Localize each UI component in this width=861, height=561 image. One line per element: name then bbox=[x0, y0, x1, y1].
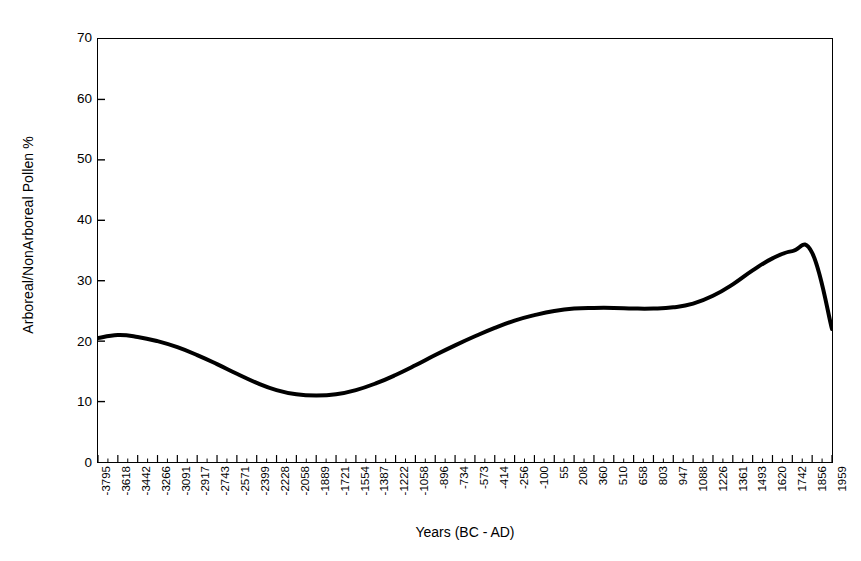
x-tick-label: -2399 bbox=[260, 466, 272, 495]
x-tick-label: 1959 bbox=[837, 466, 849, 492]
x-tick-label: -896 bbox=[439, 466, 451, 489]
y-tick-label: 10 bbox=[56, 396, 92, 410]
data-series-line bbox=[98, 244, 832, 395]
y-axis-tick-labels: 010203040506070 bbox=[52, 0, 92, 561]
x-tick-label: -1721 bbox=[340, 466, 352, 495]
x-tick-label: -1058 bbox=[419, 466, 431, 495]
y-axis-title-text: Arboreal/NonArboreal Pollen % bbox=[20, 136, 36, 333]
x-tick-label: 208 bbox=[578, 466, 590, 485]
x-tick-label: -2743 bbox=[220, 466, 232, 495]
y-tick-label: 0 bbox=[56, 456, 92, 470]
y-tick-label: 20 bbox=[56, 335, 92, 349]
x-tick-label: -3618 bbox=[121, 466, 133, 495]
x-tick-label: -3266 bbox=[161, 466, 173, 495]
y-tick-label: 30 bbox=[56, 274, 92, 288]
x-tick-label: 1226 bbox=[718, 466, 730, 492]
plot-area bbox=[97, 38, 833, 463]
x-tick-label: 1361 bbox=[738, 466, 750, 492]
x-tick-label: -734 bbox=[459, 466, 471, 489]
x-tick-label: -2571 bbox=[240, 466, 252, 495]
x-tick-label: 510 bbox=[618, 466, 630, 485]
x-tick-label: -1387 bbox=[379, 466, 391, 495]
x-tick-label: -2917 bbox=[200, 466, 212, 495]
y-tick-label: 60 bbox=[56, 92, 92, 106]
x-tick-label: 803 bbox=[658, 466, 670, 485]
x-tick-label: 658 bbox=[638, 466, 650, 485]
x-tick-label: 1620 bbox=[777, 466, 789, 492]
x-tick-label: -1889 bbox=[320, 466, 332, 495]
x-axis-tick-labels: -3795-3618-3442-3266-3091-2917-2743-2571… bbox=[97, 466, 833, 526]
x-tick-label: -100 bbox=[539, 466, 551, 489]
x-tick-label: -414 bbox=[499, 466, 511, 489]
x-tick-label: -3795 bbox=[101, 466, 113, 495]
x-tick-label: -1554 bbox=[360, 466, 372, 495]
plot-svg bbox=[98, 39, 832, 462]
x-axis-title: Years (BC - AD) bbox=[97, 524, 833, 540]
y-tick-label: 50 bbox=[56, 153, 92, 167]
x-tick-label: -256 bbox=[519, 466, 531, 489]
x-tick-label: 1742 bbox=[797, 466, 809, 492]
x-tick-label: 1088 bbox=[698, 466, 710, 492]
y-axis-title: Arboreal/NonArboreal Pollen % bbox=[8, 0, 48, 470]
x-tick-label: -3442 bbox=[141, 466, 153, 495]
x-tick-label: 1856 bbox=[817, 466, 829, 492]
y-tick-label: 40 bbox=[56, 213, 92, 227]
x-tick-label: 360 bbox=[598, 466, 610, 485]
x-tick-label: 55 bbox=[559, 466, 571, 479]
x-tick-label: -3091 bbox=[181, 466, 193, 495]
x-tick-label: -2228 bbox=[280, 466, 292, 495]
x-tick-label: -2058 bbox=[300, 466, 312, 495]
x-tick-label: -573 bbox=[479, 466, 491, 489]
pollen-chart: Arboreal/NonArboreal Pollen % 0102030405… bbox=[0, 0, 861, 561]
y-tick-label: 70 bbox=[56, 31, 92, 45]
x-tick-label: 947 bbox=[678, 466, 690, 485]
x-tick-label: 1493 bbox=[757, 466, 769, 492]
x-tick-label: -1222 bbox=[399, 466, 411, 495]
